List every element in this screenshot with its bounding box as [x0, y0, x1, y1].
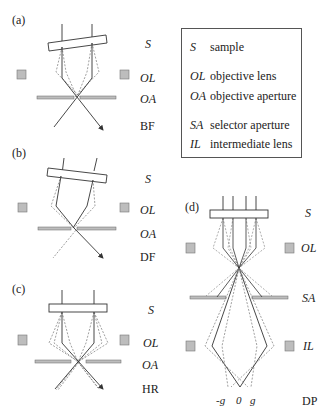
label-sample: S: [145, 173, 151, 185]
objective-lens-left: [18, 335, 27, 345]
objective-lens-right: [120, 70, 129, 79]
legend-symbol: S: [190, 40, 196, 55]
legend-text: objective lens: [210, 69, 276, 84]
panel-d-diffraction-pattern: [186, 196, 294, 387]
sample-slab: [49, 304, 107, 312]
label-sample: S: [305, 207, 311, 219]
panel-b-dark-field: [18, 158, 129, 258]
objective-aperture-right: [77, 227, 116, 230]
selector-aperture-right: [252, 296, 288, 299]
spot-label-minus-g: -g: [216, 395, 225, 406]
objective-lens-right: [120, 335, 129, 345]
sample-slab: [47, 168, 107, 183]
legend-text: sample: [210, 40, 244, 55]
label-objective-lens: OL: [143, 337, 158, 349]
spot-label-g: g: [250, 395, 256, 406]
label-objective-lens: OL: [140, 72, 155, 84]
objective-lens-right: [285, 243, 294, 253]
label-sample: S: [145, 38, 151, 50]
panel-b-tag: (b): [12, 147, 26, 159]
objective-lens-right: [120, 203, 129, 212]
label-objective-lens: OL: [301, 242, 316, 254]
label-mode-dp: DP: [302, 395, 317, 407]
panel-c-high-resolution: [18, 290, 129, 390]
label-intermediate-lens: IL: [303, 340, 314, 352]
legend-symbol: OA: [190, 89, 206, 104]
objective-lens-left: [17, 70, 26, 79]
legend-text: selector aperture: [210, 118, 290, 133]
panel-a-bright-field: [17, 24, 129, 130]
label-mode-hr: HR: [142, 383, 159, 395]
label-objective-aperture: OA: [140, 93, 156, 105]
legend-text: intermediate lens: [210, 137, 292, 152]
spot-label-zero: 0: [236, 395, 242, 406]
sample-slab: [48, 35, 107, 51]
legend-box: S sample OL objective lens OA objective …: [181, 28, 302, 158]
intermediate-lens-left: [186, 341, 195, 351]
selector-aperture-left: [190, 296, 226, 299]
legend-symbol: IL: [190, 137, 201, 152]
objective-lens-left: [18, 203, 27, 212]
objective-aperture-left: [35, 360, 71, 363]
legend-symbol: OL: [190, 69, 205, 84]
intermediate-lens-right: [285, 341, 294, 351]
panel-c-tag: (c): [12, 283, 25, 295]
panel-a-tag: (a): [12, 14, 25, 26]
label-mode-df: DF: [140, 251, 155, 263]
panel-d-tag: (d): [185, 201, 199, 213]
sample-slab: [210, 210, 268, 218]
objective-aperture-left: [38, 227, 71, 230]
objective-aperture-left: [37, 96, 74, 99]
objective-lens-left: [186, 243, 195, 253]
label-mode-bf: BF: [140, 120, 155, 132]
legend-text: objective aperture: [210, 89, 296, 104]
tem-imaging-modes-diagram: (a) (b) (c) (d) S OL OA BF S OL OA DF S …: [0, 0, 333, 420]
label-selector-aperture: SA: [302, 292, 315, 304]
legend-symbol: SA: [190, 118, 203, 133]
objective-aperture-right: [80, 96, 116, 99]
label-objective-aperture: OA: [140, 228, 156, 240]
objective-aperture-right: [86, 360, 121, 363]
label-objective-lens: OL: [140, 204, 155, 216]
label-objective-aperture: OA: [142, 359, 158, 371]
label-sample: S: [148, 304, 154, 316]
